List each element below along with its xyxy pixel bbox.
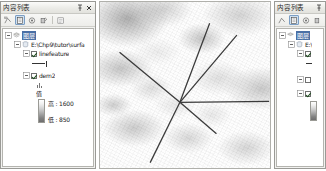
tree-label-linefeature: linefeature	[39, 49, 69, 58]
close-icon[interactable]	[85, 4, 93, 12]
layer-visibility-checkbox-secondary-2[interactable]	[305, 77, 311, 83]
tree-node-linefeature-secondary[interactable]	[277, 49, 323, 58]
tree-label-datasource: E:\Chp9\tutor\surfa	[31, 40, 85, 49]
tree-node-dem2[interactable]: dem2	[3, 71, 93, 80]
expander-icon[interactable]	[297, 50, 304, 57]
legend-symbol-linefeature	[3, 58, 93, 69]
sight-line	[180, 102, 217, 133]
toc-panel: 内容列表	[0, 1, 96, 169]
tree-node-datasource[interactable]: E:\Chp9\tutor\surfa	[3, 40, 93, 49]
layer-visibility-checkbox-dem2[interactable]	[31, 73, 37, 79]
toc-tree-secondary[interactable]: 图层 E:\	[276, 28, 324, 167]
list-by-drawing-order-icon[interactable]	[3, 15, 13, 25]
list-by-selection-icon[interactable]	[39, 15, 49, 25]
layers-icon	[287, 32, 294, 39]
expander-icon[interactable]	[297, 76, 304, 83]
legend-symbol-secondary	[277, 58, 323, 69]
map-view[interactable]	[99, 1, 271, 169]
tree-label-dem2: dem2	[39, 71, 55, 80]
list-by-drawing-order-icon[interactable]	[277, 15, 287, 25]
folder-database-icon	[22, 41, 29, 48]
sight-line	[180, 101, 269, 102]
tree-node-dem2-secondary[interactable]	[277, 89, 323, 98]
sight-line	[180, 35, 237, 102]
toc-panel-secondary: 内容列表	[274, 1, 326, 169]
list-by-visibility-icon[interactable]	[27, 15, 37, 25]
linefeature-layer	[100, 2, 270, 169]
toc-title: 内容列表	[3, 3, 75, 13]
layer-visibility-checkbox-secondary-1[interactable]	[305, 51, 311, 57]
toc-toolbar-secondary	[275, 14, 325, 27]
tree-label-layers-root-secondary: 图层	[296, 31, 310, 40]
expander-icon[interactable]	[288, 41, 295, 48]
tree-node-linefeature[interactable]: linefeature	[3, 49, 93, 58]
line-symbol-icon	[306, 60, 314, 67]
options-icon[interactable]	[56, 15, 66, 25]
tree-node-layers-root-secondary[interactable]: 图层	[277, 31, 323, 40]
layers-icon	[13, 32, 20, 39]
expander-icon[interactable]	[14, 41, 21, 48]
expander-icon[interactable]	[279, 32, 286, 39]
folder-database-icon	[296, 41, 303, 48]
legend-header-dem2	[3, 80, 93, 89]
tree-node-layers-root[interactable]: 图层	[3, 31, 93, 40]
color-ramp-icon	[38, 99, 45, 123]
toc-title-secondary: 内容列表	[277, 3, 314, 13]
expander-icon[interactable]	[297, 90, 304, 97]
toc-titlebar-secondary: 内容列表	[275, 2, 325, 14]
legend-color-ramp-secondary	[277, 98, 323, 124]
list-by-source-icon[interactable]	[289, 15, 299, 25]
toc-toolbar	[1, 14, 95, 27]
toolbar-separator	[52, 16, 53, 24]
sight-line	[180, 23, 210, 102]
tree-label-layers-root: 图层	[22, 31, 36, 40]
layer-visibility-checkbox-linefeature[interactable]	[31, 51, 37, 57]
legend-value-label: 值	[3, 89, 93, 98]
list-by-visibility-icon[interactable]	[301, 15, 311, 25]
color-ramp-icon	[310, 101, 317, 121]
raster-legend-icon	[36, 81, 43, 88]
ramp-low-label: 低 : 850	[48, 115, 70, 124]
ramp-high-label: 高 : 1600	[48, 99, 74, 108]
toc-tree[interactable]: 图层 E:\Chp9\tutor\surfa	[2, 28, 94, 167]
list-by-selection-icon[interactable]	[313, 15, 323, 25]
legend-value-text: 值	[36, 89, 42, 98]
layer-visibility-checkbox-secondary-3[interactable]	[305, 91, 311, 97]
ramp-labels: 高 : 1600 低 : 850	[48, 98, 93, 124]
legend-color-ramp-dem2: 高 : 1600 低 : 850	[3, 98, 93, 124]
tree-label-datasource-secondary: E:\	[305, 40, 312, 49]
pin-icon[interactable]	[315, 4, 323, 12]
pin-icon[interactable]	[76, 4, 84, 12]
line-symbol-icon	[32, 60, 48, 67]
expander-icon[interactable]	[23, 72, 30, 79]
sight-line	[120, 52, 180, 102]
expander-icon[interactable]	[5, 32, 12, 39]
expander-icon[interactable]	[23, 50, 30, 57]
list-by-source-icon[interactable]	[15, 15, 25, 25]
sight-line	[150, 102, 180, 162]
toc-titlebar: 内容列表	[1, 2, 95, 14]
tree-node-unchecked-secondary[interactable]	[277, 75, 323, 84]
tree-node-datasource-secondary[interactable]: E:\	[277, 40, 323, 49]
